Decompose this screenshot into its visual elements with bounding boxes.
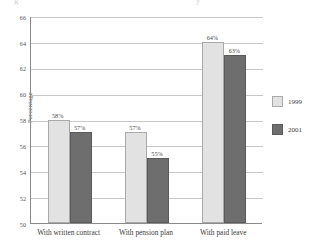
bar-1999-1[interactable] bbox=[48, 120, 70, 224]
legend-label-2001: 2001 bbox=[288, 126, 302, 134]
y-tick-label: 52 bbox=[12, 195, 26, 202]
bar-2001-1[interactable] bbox=[70, 132, 92, 223]
gridline bbox=[31, 17, 263, 18]
cropped-caption-remnant: g y bbox=[0, 0, 316, 6]
bar-2001-2[interactable] bbox=[147, 158, 169, 223]
bar-2001-3[interactable] bbox=[224, 55, 246, 223]
cropped-glyph-left: g bbox=[14, 0, 19, 5]
legend-swatch-1999 bbox=[272, 96, 283, 107]
y-tick-label: 58 bbox=[12, 117, 26, 124]
y-tick-label: 50 bbox=[12, 221, 26, 228]
legend-swatch-2001 bbox=[272, 124, 283, 135]
y-tick-label: 60 bbox=[12, 91, 26, 98]
legend-item-1999[interactable]: 1999 bbox=[272, 96, 302, 107]
bar-1999-3[interactable] bbox=[202, 42, 224, 223]
y-tick-label: 56 bbox=[12, 143, 26, 150]
legend-item-2001[interactable]: 2001 bbox=[272, 124, 302, 135]
bar-value-label: 63% bbox=[219, 47, 249, 54]
bar-1999-2[interactable] bbox=[125, 132, 147, 223]
bar-value-label: 64% bbox=[197, 34, 227, 41]
bar-value-label: 58% bbox=[43, 112, 73, 119]
legend-label-1999: 1999 bbox=[288, 98, 302, 106]
y-tick-label: 66 bbox=[12, 14, 26, 21]
bar-value-label: 57% bbox=[120, 124, 150, 131]
bar-value-label: 57% bbox=[65, 124, 95, 131]
y-tick-label: 64 bbox=[12, 40, 26, 47]
bar-chart-figure: g y Percentage 666462605856545250 With w… bbox=[0, 0, 316, 246]
bar-value-label: 55% bbox=[142, 150, 172, 157]
x-tick-label: With paid leave bbox=[173, 228, 273, 237]
cropped-glyph-right: y bbox=[196, 0, 201, 5]
gridline bbox=[31, 43, 263, 44]
y-tick-label: 54 bbox=[12, 169, 26, 176]
y-tick-label: 62 bbox=[12, 65, 26, 72]
